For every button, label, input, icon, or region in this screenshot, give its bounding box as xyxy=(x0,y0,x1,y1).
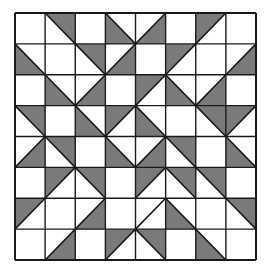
diagonal-line xyxy=(136,198,166,229)
quilt-diagram xyxy=(0,0,266,269)
grid-lines xyxy=(15,13,256,260)
